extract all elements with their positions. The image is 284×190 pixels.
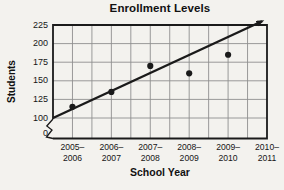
plot-border xyxy=(53,25,267,139)
y-tick-label: 175 xyxy=(16,57,48,67)
x-axis-title: School Year xyxy=(53,166,267,178)
x-tick-label: 2008– 2009 xyxy=(168,142,210,163)
enrollment-chart: Enrollment Levels Students 2252001751501… xyxy=(0,0,284,190)
y-tick-label: 200 xyxy=(16,38,48,48)
y-tick-label: 150 xyxy=(16,75,48,85)
x-tick-label: 2005– 2006 xyxy=(51,142,93,163)
data-point xyxy=(69,104,75,110)
data-point xyxy=(108,89,114,95)
x-tick-label: 2007– 2008 xyxy=(129,142,171,163)
x-tick-label: 2006– 2007 xyxy=(90,142,132,163)
x-tick-label: 2009– 2010 xyxy=(207,142,249,163)
trend-line xyxy=(53,21,262,118)
data-point xyxy=(186,70,192,76)
y-tick-label: 0 xyxy=(16,128,48,138)
data-point xyxy=(147,63,153,69)
data-point xyxy=(225,52,231,58)
y-tick-label: 225 xyxy=(16,20,48,30)
x-tick-label: 2010– 2011 xyxy=(246,142,284,163)
y-tick-label: 125 xyxy=(16,94,48,104)
y-tick-label: 100 xyxy=(16,113,48,123)
